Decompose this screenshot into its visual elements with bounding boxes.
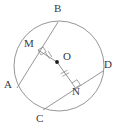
- vertex-label-a: A: [4, 79, 12, 90]
- circle-outline: [14, 21, 104, 111]
- circle-geometry-figure: B M O D A N C: [0, 0, 121, 134]
- vertex-label-c: C: [36, 113, 43, 124]
- vertex-label-n: N: [72, 86, 80, 97]
- vertex-label-m: M: [24, 38, 34, 49]
- vertex-label-b: B: [54, 3, 61, 14]
- center-point-dot: [55, 60, 59, 64]
- vertex-label-d: D: [104, 59, 112, 70]
- figure-canvas: [0, 0, 121, 134]
- vertex-label-o: O: [63, 51, 71, 62]
- segment-on: [57, 62, 72, 83]
- tick-marks-om: [46, 51, 52, 59]
- chord-ab: [17, 22, 58, 88]
